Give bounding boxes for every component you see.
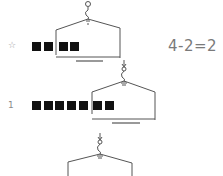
- hanging-scale-3: [68, 133, 132, 176]
- hanging-scale-1: [56, 2, 120, 62]
- scale-drawings: [0, 0, 223, 176]
- hanging-scale-2: [92, 60, 155, 123]
